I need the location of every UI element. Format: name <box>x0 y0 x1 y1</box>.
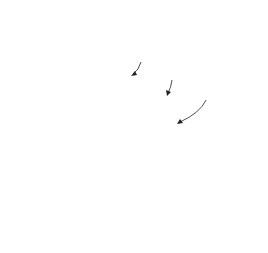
arrowhead-icon <box>177 119 183 124</box>
chart-canvas <box>0 0 268 253</box>
arrowhead-icon <box>166 90 171 96</box>
arrowheads <box>131 71 183 124</box>
arrow-uv14-uvii <box>180 100 206 122</box>
